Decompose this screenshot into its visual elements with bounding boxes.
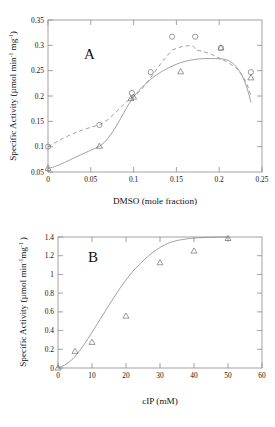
panel-a-solid-curve [48, 59, 251, 169]
x-tick-label: 0.05 [84, 175, 97, 184]
y-label-prefix: Specific Activity (µmol min [18, 263, 28, 367]
panel-b-triangle-markers [55, 235, 231, 370]
x-tick-label: 20 [122, 371, 130, 380]
y-tick-label: 0.15 [31, 117, 44, 126]
x-tick-label: 50 [224, 371, 232, 380]
y-label-prefix: Specific Activity (µmol min [8, 57, 18, 161]
x-tick-label: 0 [46, 175, 50, 184]
x-tick-label: 0.1 [129, 175, 139, 184]
panel-b-solid-curve [58, 237, 228, 368]
x-tick-label: 0 [56, 371, 60, 380]
y-tick-label: 0.1 [35, 142, 45, 151]
panel-b-plot: 0 10 20 30 40 50 60 0 0.2 0.4 0.6 0.8 1 … [0, 214, 275, 427]
y-tick-label: 1.2 [45, 251, 55, 260]
x-tick-label: 30 [156, 371, 164, 380]
panel-a-y-tick-labels: 0.05 0.1 0.15 0.2 0.25 0.3 0.35 [31, 16, 44, 177]
y-label-suffix: ) [8, 31, 18, 34]
y-tick-label: 0.25 [31, 66, 44, 75]
x-tick-label: 0.2 [215, 175, 225, 184]
panel-a-plot: 0 0.05 0.1 0.15 0.2 0.25 0.05 0.1 0.15 0… [0, 0, 275, 214]
y-label-mid: mg [18, 247, 28, 259]
panel-a-dashed-curve [48, 46, 251, 147]
y-tick-label: 0.2 [45, 345, 55, 354]
panel-b-y-tick-labels: 0 0.2 0.4 0.6 0.8 1 1.2 1.4 [45, 233, 55, 373]
panel-a-y-axis-label: Specific Activity (µmol min-1 mg-1) [8, 31, 18, 161]
x-tick-label: 0.25 [256, 175, 269, 184]
x-tick-label: 10 [88, 371, 96, 380]
x-tick-label: 40 [190, 371, 198, 380]
panel-a-circle-markers [45, 34, 253, 149]
y-label-mid: mg [8, 38, 18, 52]
y-tick-label: 0.35 [31, 16, 44, 25]
panel-a-x-axis-label: DMSO (mole fraction) [113, 196, 197, 206]
y-label-suffix: ) [18, 237, 28, 242]
y-tick-label: 0.3 [35, 41, 45, 50]
panel-a-x-tick-labels: 0 0.05 0.1 0.15 0.2 0.25 [46, 175, 269, 184]
panel-a-triangle-markers [45, 45, 254, 171]
y-tick-label: 0.6 [45, 307, 55, 316]
y-tick-label: 0 [50, 364, 54, 373]
panel-a-x-ticks [48, 20, 262, 172]
panel-a-y-ticks [48, 20, 262, 172]
y-tick-label: 0.8 [45, 289, 55, 298]
x-tick-label: 0.15 [170, 175, 183, 184]
y-tick-label: 1 [50, 270, 54, 279]
y-tick-label: 0.2 [35, 92, 45, 101]
y-tick-label: 0.4 [45, 326, 55, 335]
panel-a: 0 0.05 0.1 0.15 0.2 0.25 0.05 0.1 0.15 0… [0, 0, 275, 214]
y-tick-label: 0.05 [31, 168, 44, 177]
panel-a-axes-frame [48, 20, 262, 172]
panel-b-x-tick-labels: 0 10 20 30 40 50 60 [56, 371, 266, 380]
y-tick-label: 1.4 [45, 233, 55, 242]
panel-b: 0 10 20 30 40 50 60 0 0.2 0.4 0.6 0.8 1 … [0, 214, 275, 427]
panel-b-letter: B [88, 249, 98, 265]
panel-b-x-axis-label: cIP (mM) [142, 396, 178, 406]
panel-a-letter: A [84, 46, 95, 62]
figure-container: 0 0.05 0.1 0.15 0.2 0.25 0.05 0.1 0.15 0… [0, 0, 275, 427]
panel-b-y-axis-label: Specific Activity (µmol min-1mg-1 ) [18, 237, 28, 367]
x-tick-label: 60 [258, 371, 266, 380]
